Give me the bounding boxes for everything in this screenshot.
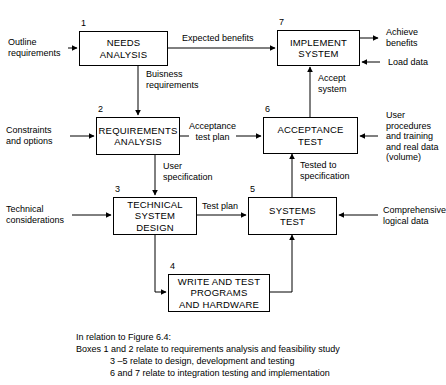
box-implement-system[interactable]: IMPLEMENT SYSTEM [277,30,360,66]
box-write-and-test-programs-line-3: AND HARDWARE [179,299,259,311]
box-number-4: 4 [170,261,175,271]
box-needs-analysis[interactable]: NEEDS ANALYSIS [79,31,168,66]
label-expected-benefits: Expected benefits [182,33,254,44]
label-user-procedures: User procedures and training and real da… [386,110,439,163]
arrow-write-test-to-systems-test [270,235,292,292]
box-requirements-analysis-line-2: ANALYSIS [114,136,161,148]
arrow-design-to-write-test [155,233,166,292]
caption-line-3: 3 –5 relate to design, development and t… [110,355,295,367]
box-technical-system-design-line-3: DESIGN [136,222,174,234]
label-acceptance-test-plan: Acceptance test plan [189,121,236,142]
box-requirements-analysis[interactable]: REQUIREMENTS ANALYSIS [96,117,180,155]
label-accept-system: Accept system [318,73,347,94]
box-technical-system-design-line-2: SYSTEM [135,210,175,222]
box-acceptance-test-line-1: ACCEPTANCE [277,124,343,136]
box-number-1: 1 [81,18,86,28]
label-test-plan: Test plan [202,201,238,212]
box-acceptance-test-line-2: TEST [298,136,323,148]
label-tested-to-specification: Tested to specification [300,160,350,181]
box-number-7: 7 [279,17,284,27]
label-achieve-benefits: Achieve benefits [386,27,418,48]
box-implement-system-line-1: IMPLEMENT [290,37,347,49]
label-comprehensive-logical-data: Comprehensive logical data [383,205,446,226]
label-user-specification: User specification [163,161,213,182]
label-constraints-and-options: Constraints and options [6,125,53,146]
box-needs-analysis-line-1: NEEDS [107,37,141,49]
box-requirements-analysis-line-1: REQUIREMENTS [99,125,178,137]
box-systems-test[interactable]: SYSTEMS TEST [248,197,337,235]
label-business-requirements: Buisness requirements [146,69,199,90]
box-technical-system-design[interactable]: TECHNICAL SYSTEM DESIGN [113,197,197,235]
box-number-5: 5 [250,184,255,194]
box-technical-system-design-line-1: TECHNICAL [127,199,183,211]
label-outline-requirements: Outline requirements [8,37,61,58]
caption-line-1: In relation to Figure 6.4: [76,331,171,343]
caption-line-4: 6 and 7 relate to integration testing an… [110,367,330,379]
box-write-and-test-programs-line-1: WRITE AND TEST [178,276,260,288]
box-systems-test-line-1: SYSTEMS [269,205,316,217]
label-load-data: Load data [388,57,428,68]
caption-line-2: Boxes 1 and 2 relate to requirements ana… [76,343,340,355]
box-write-and-test-programs-line-2: PROGRAMS [190,287,247,299]
box-write-and-test-programs[interactable]: WRITE AND TEST PROGRAMS AND HARDWARE [168,274,270,312]
box-acceptance-test[interactable]: ACCEPTANCE TEST [263,117,358,154]
box-number-6: 6 [265,104,270,114]
label-technical-considerations: Technical considerations [6,204,64,225]
box-number-3: 3 [115,184,120,194]
box-implement-system-line-2: SYSTEM [298,48,338,60]
box-needs-analysis-line-2: ANALYSIS [100,49,147,61]
box-systems-test-line-2: TEST [280,216,305,228]
box-number-2: 2 [98,104,103,114]
